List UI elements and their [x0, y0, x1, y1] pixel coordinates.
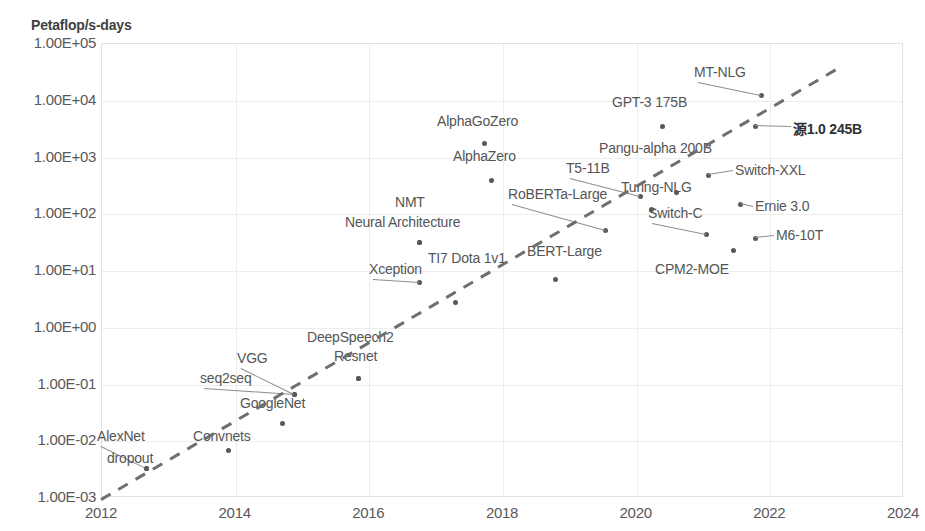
x-axis-tick-label: 2016 [328, 504, 408, 521]
data-point-label: Convnets [193, 428, 251, 444]
gridline-horizontal [102, 214, 902, 215]
y-axis-tick-label: 1.00E+04 [4, 91, 96, 108]
data-point-label: 源1.0 245B [793, 118, 862, 138]
y-axis-tick-label: 1.00E+05 [4, 34, 96, 51]
data-point-label: DeepSpeech2 [307, 329, 394, 345]
data-point-label: Resnet [334, 348, 377, 364]
data-point-label: RoBERTa-Large [508, 186, 607, 202]
data-point-marker [553, 277, 558, 282]
data-point-marker [489, 178, 494, 183]
gridline-horizontal [102, 271, 902, 272]
data-point-marker [356, 376, 361, 381]
x-axis-tick-label: 2018 [462, 504, 542, 521]
data-point-marker [226, 448, 231, 453]
data-point-marker [417, 240, 422, 245]
data-point-label: BERT-Large [527, 243, 602, 259]
gridline-vertical [503, 44, 504, 496]
data-point-label: GoogleNet [240, 395, 305, 411]
data-point-label: AlphaZero [453, 148, 516, 164]
data-point-label: GPT-3 175B [612, 94, 687, 110]
data-point-marker [482, 141, 487, 146]
y-axis-tick-label: 1.00E+02 [4, 204, 96, 221]
data-point-marker [731, 248, 736, 253]
data-point-label: Switch-C [648, 205, 702, 221]
data-point-marker [674, 190, 679, 195]
data-point-label: T5-11B [566, 160, 610, 176]
data-point-label: Neural Architecture [345, 214, 460, 230]
y-axis-tick-label: 1.00E+03 [4, 148, 96, 165]
x-axis-tick-label: 2014 [195, 504, 275, 521]
data-point-label: CPM2-MOE [655, 261, 729, 277]
x-axis-tick-label: 2020 [596, 504, 676, 521]
data-point-label: AlphaGoZero [437, 113, 518, 129]
gridline-horizontal [102, 101, 902, 102]
data-point-label: Switch-XXL [735, 162, 805, 178]
gridline-vertical [637, 44, 638, 496]
data-point-label: MT-NLG [694, 64, 746, 80]
data-point-marker [660, 124, 665, 129]
gridline-vertical [770, 44, 771, 496]
data-point-label: TI7 Dota 1v1 [428, 250, 506, 266]
data-point-label: VGG [237, 350, 268, 366]
x-axis-tick-label: 2012 [61, 504, 141, 521]
data-point-marker [144, 466, 149, 471]
data-point-label: NMT [395, 194, 425, 210]
y-axis-tick-label: 1.00E+01 [4, 261, 96, 278]
gridline-horizontal [102, 328, 902, 329]
x-axis-tick-label: 2024 [863, 504, 925, 521]
y-axis-title: Petaflop/s-days [31, 17, 131, 33]
data-point-marker [453, 300, 458, 305]
data-point-label: Xception [369, 261, 422, 277]
data-point-label: dropout [107, 450, 153, 466]
data-point-label: Pangu-alpha 200B [599, 140, 712, 156]
data-point-label: M6-10T [776, 227, 823, 243]
y-axis-tick-label: 1.00E+00 [4, 318, 96, 335]
x-axis-tick-label: 2022 [729, 504, 809, 521]
data-point-label: seq2seq [200, 370, 252, 386]
y-axis-tick-label: 1.00E-03 [4, 488, 96, 505]
y-axis-tick-label: 1.00E-01 [4, 375, 96, 392]
data-point-label: AlexNet [97, 428, 145, 444]
data-point-label: Turing-NLG [621, 179, 692, 195]
data-point-label: Ernie 3.0 [755, 198, 809, 214]
y-axis-tick-label: 1.00E-02 [4, 431, 96, 448]
data-point-marker [280, 421, 285, 426]
chart-root: Petaflop/s-days 1.00E+051.00E+041.00E+03… [0, 0, 925, 531]
